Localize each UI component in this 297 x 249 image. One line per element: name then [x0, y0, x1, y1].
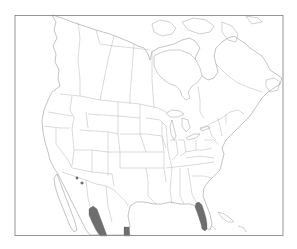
range-map	[0, 0, 297, 249]
range-tamaulipas	[124, 227, 130, 236]
range-arizona-spot-2	[81, 182, 84, 185]
range-arizona-spot-1	[76, 177, 78, 179]
